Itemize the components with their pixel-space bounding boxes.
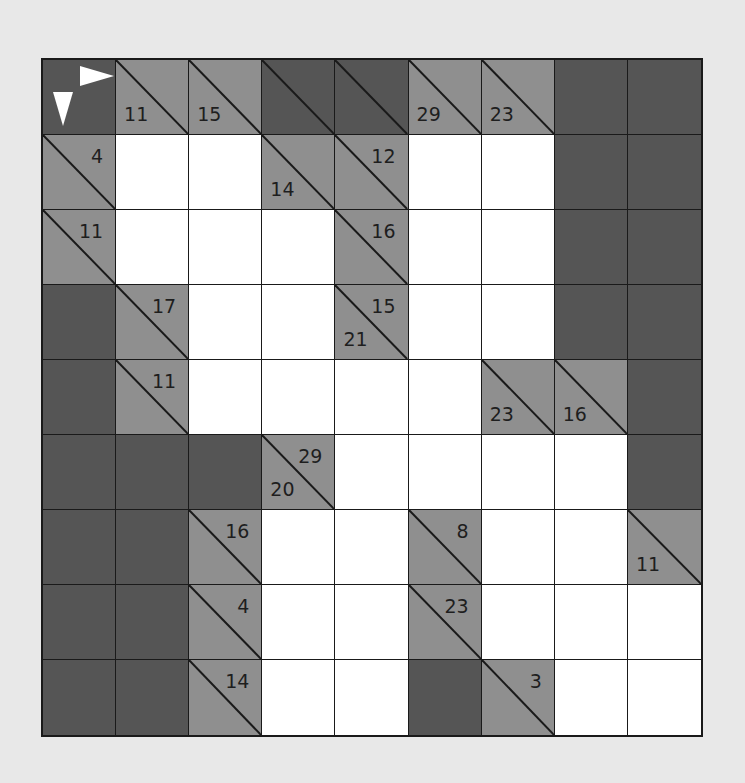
across-clue: 11 [79, 222, 103, 241]
block-cell [628, 435, 701, 510]
clue-cell: 14 [262, 135, 335, 210]
clue-cell: 1521 [335, 285, 408, 360]
entry-cell[interactable] [189, 135, 262, 210]
across-clue: 15 [371, 297, 395, 316]
block-cell [555, 135, 628, 210]
entry-cell[interactable] [189, 360, 262, 435]
down-clue: 16 [563, 405, 587, 424]
across-clue: 23 [444, 597, 468, 616]
entry-cell[interactable] [335, 585, 408, 660]
entry-cell[interactable] [555, 510, 628, 585]
clue-cell: 11 [628, 510, 701, 585]
entry-cell[interactable] [189, 210, 262, 285]
start-cell [43, 60, 116, 135]
entry-cell[interactable] [482, 510, 555, 585]
entry-cell[interactable] [335, 510, 408, 585]
entry-cell[interactable] [262, 285, 335, 360]
block-cell [409, 660, 482, 735]
clue-cell: 23 [482, 60, 555, 135]
clue-cell: 16 [189, 510, 262, 585]
down-clue: 21 [343, 330, 367, 349]
block-cell [43, 585, 116, 660]
entry-cell[interactable] [409, 360, 482, 435]
across-clue: 4 [237, 597, 249, 616]
diagonal-divider [335, 60, 407, 134]
block-cell [555, 60, 628, 135]
entry-cell[interactable] [482, 135, 555, 210]
clue-cell: 17 [116, 285, 189, 360]
clue-cell: 29 [409, 60, 482, 135]
block-cell [555, 210, 628, 285]
clue-cell: 3 [482, 660, 555, 735]
entry-cell[interactable] [482, 285, 555, 360]
across-clue: 3 [530, 672, 542, 691]
down-clue: 11 [124, 105, 148, 124]
block-cell [43, 285, 116, 360]
diagonal-divider [43, 135, 115, 209]
across-clue: 12 [371, 147, 395, 166]
block-cell [628, 360, 701, 435]
diagonal-divider [409, 510, 481, 584]
block-cell [116, 435, 189, 510]
entry-cell[interactable] [116, 135, 189, 210]
block-cell [628, 135, 701, 210]
clue-cell: 14 [189, 660, 262, 735]
clue-cell: 15 [189, 60, 262, 135]
clue-cell: 23 [482, 360, 555, 435]
entry-cell[interactable] [262, 585, 335, 660]
across-clue: 14 [225, 672, 249, 691]
entry-cell[interactable] [482, 435, 555, 510]
entry-cell[interactable] [262, 510, 335, 585]
block-cell [43, 360, 116, 435]
entry-cell[interactable] [116, 210, 189, 285]
entry-cell[interactable] [409, 210, 482, 285]
block-cell [116, 660, 189, 735]
clue-cell: 2920 [262, 435, 335, 510]
block-cell [43, 660, 116, 735]
across-clue: 16 [371, 222, 395, 241]
entry-cell[interactable] [262, 210, 335, 285]
block-cell-diagonal [262, 60, 335, 135]
across-clue: 8 [457, 522, 469, 541]
entry-cell[interactable] [628, 585, 701, 660]
across-clue: 4 [91, 147, 103, 166]
down-clue: 11 [636, 555, 660, 574]
entry-cell[interactable] [409, 285, 482, 360]
arrow-right-icon [80, 66, 114, 86]
block-cell [555, 285, 628, 360]
clue-cell: 23 [409, 585, 482, 660]
clue-cell: 12 [335, 135, 408, 210]
clue-cell: 11 [43, 210, 116, 285]
entry-cell[interactable] [409, 435, 482, 510]
arrow-down-icon [53, 92, 73, 126]
across-clue: 11 [152, 372, 176, 391]
entry-cell[interactable] [409, 135, 482, 210]
across-clue: 17 [152, 297, 176, 316]
entry-cell[interactable] [482, 210, 555, 285]
block-cell [628, 210, 701, 285]
down-clue: 29 [417, 105, 441, 124]
entry-cell[interactable] [555, 435, 628, 510]
block-cell [43, 435, 116, 510]
entry-cell[interactable] [262, 660, 335, 735]
across-clue: 29 [298, 447, 322, 466]
entry-cell[interactable] [555, 660, 628, 735]
entry-cell[interactable] [628, 660, 701, 735]
entry-cell[interactable] [335, 660, 408, 735]
block-cell [189, 435, 262, 510]
diagonal-divider [262, 60, 334, 134]
clue-cell: 16 [555, 360, 628, 435]
across-clue: 16 [225, 522, 249, 541]
clue-cell: 8 [409, 510, 482, 585]
clue-cell: 4 [43, 135, 116, 210]
block-cell [116, 510, 189, 585]
entry-cell[interactable] [262, 360, 335, 435]
down-clue: 14 [270, 180, 294, 199]
entry-cell[interactable] [335, 360, 408, 435]
entry-cell[interactable] [555, 585, 628, 660]
clue-cell: 11 [116, 360, 189, 435]
diagonal-divider [189, 585, 261, 659]
entry-cell[interactable] [189, 285, 262, 360]
entry-cell[interactable] [482, 585, 555, 660]
entry-cell[interactable] [335, 435, 408, 510]
